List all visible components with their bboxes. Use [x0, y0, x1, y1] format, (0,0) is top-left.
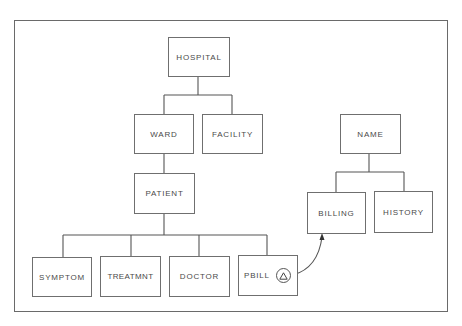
node-label: BILLING: [318, 209, 354, 218]
node-symptom: SYMPTOM: [32, 257, 92, 297]
node-label: NAME: [357, 130, 383, 139]
triangle-icon: [279, 272, 288, 280]
node-facility: FACILITY: [202, 114, 263, 154]
node-ward: WARD: [134, 114, 194, 154]
node-label: FACILITY: [212, 130, 253, 139]
node-billing: BILLING: [307, 192, 366, 234]
pointer-segment-icon: [276, 268, 291, 283]
arrowhead-icon: [320, 233, 325, 240]
node-label: HOSPITAL: [176, 53, 221, 62]
node-label: PATIENT: [145, 189, 183, 198]
node-label: HISTORY: [383, 208, 424, 217]
node-treatmnt: TREATMNT: [100, 256, 161, 297]
node-history: HISTORY: [374, 191, 433, 233]
node-patient: PATIENT: [134, 173, 195, 214]
node-hospital: HOSPITAL: [168, 37, 230, 77]
node-label: TREATMNT: [107, 272, 153, 281]
node-label: DOCTOR: [180, 272, 219, 281]
node-doctor: DOCTOR: [169, 256, 230, 297]
node-label: SYMPTOM: [39, 273, 85, 282]
node-name: NAME: [340, 114, 401, 154]
node-label: WARD: [150, 130, 177, 139]
node-label: PBILL: [244, 271, 270, 280]
